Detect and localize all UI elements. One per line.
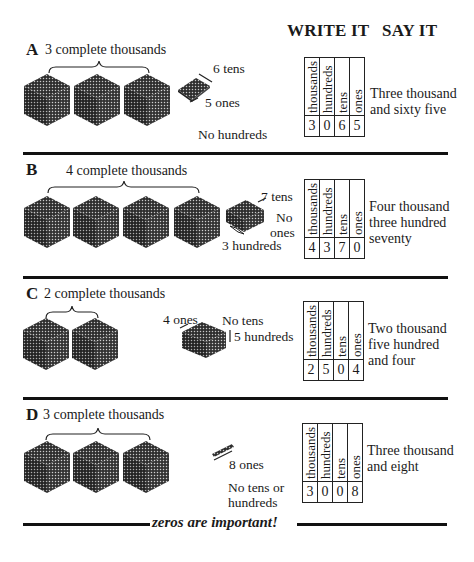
column-header: thousands (303, 424, 318, 481)
digit-thousands: 3 (303, 482, 318, 502)
section-title: 2 complete thousands (44, 286, 165, 302)
digit-tens: 0 (333, 482, 348, 502)
brace-icon (47, 180, 200, 194)
section-title: 3 complete thousands (43, 407, 164, 423)
hundreds-label: No hundreds (198, 127, 267, 142)
footer-rule-left (23, 523, 150, 526)
section-letter: A (26, 40, 38, 60)
place-value-table: thousands hundreds tens ones 2 5 0 4 (303, 301, 364, 381)
digit-ones: 5 (350, 116, 364, 136)
column-header: ones (349, 302, 363, 359)
place-value-table: thousands hundreds tens ones 3 0 6 5 (304, 57, 365, 137)
digit-ones: 4 (349, 360, 363, 380)
section-title: 4 complete thousands (66, 163, 187, 179)
section-divider (23, 397, 448, 400)
digit-hundreds: 0 (318, 482, 333, 502)
digit-ones: 8 (348, 482, 362, 502)
thousand-cube-icon (124, 74, 170, 128)
footer-rule-right (297, 523, 447, 526)
thousand-cube-icon (73, 441, 119, 495)
brace-icon (45, 427, 151, 441)
digit-thousands: 4 (305, 238, 320, 258)
digit-hundreds: 0 (320, 116, 335, 136)
digit-tens: 6 (335, 116, 350, 136)
place-value-table: thousands hundreds tens ones 3 0 0 8 (302, 423, 363, 503)
section-letter: D (26, 405, 38, 425)
say-it-text: Four thousand three hundred seventy (369, 199, 450, 247)
thousand-cube-icon (74, 74, 120, 128)
digit-hundreds: 5 (319, 360, 334, 380)
zeros-note: zeros are important! (152, 514, 278, 531)
ones-label: 4 ones (163, 312, 198, 327)
digit-ones: 0 (350, 238, 364, 258)
digit-hundreds: 3 (320, 238, 335, 258)
column-header: tens (335, 58, 350, 115)
say-it-text: Two thousand five hundred and four (368, 321, 447, 369)
section-divider (23, 276, 448, 279)
say-it-text: Three thousand and eight (367, 443, 454, 475)
brace-icon (48, 60, 150, 74)
thousand-cube-icon (123, 441, 169, 495)
column-header: hundreds (319, 302, 334, 359)
section-divider (23, 152, 448, 155)
ones-label: No (276, 210, 293, 225)
column-header: hundreds (318, 424, 333, 481)
thousand-cube-icon (72, 318, 118, 372)
tens-label: 7 tens (261, 189, 293, 204)
section-letter: B (26, 160, 37, 180)
digit-tens: 7 (335, 238, 350, 258)
brace-icon (45, 305, 99, 319)
digit-tens: 0 (334, 360, 349, 380)
thousand-cube-icon (24, 196, 70, 250)
write-it-heading: WRITE IT (287, 21, 369, 41)
thousand-cube-icon (73, 196, 119, 250)
column-header: tens (335, 180, 350, 237)
section-title: 3 complete thousands (45, 42, 166, 58)
say-it-text: Three thousand and sixty five (370, 86, 457, 118)
column-header: ones (350, 58, 364, 115)
none-label: No tens or (228, 480, 284, 495)
none-label: hundreds (228, 495, 278, 510)
thousand-cube-icon (23, 318, 69, 372)
column-header: hundreds (320, 180, 335, 237)
tens-label: 6 tens (213, 61, 245, 76)
thousand-cube-icon (24, 74, 70, 128)
column-header: ones (350, 180, 364, 237)
thousand-cube-icon (123, 196, 169, 250)
say-it-heading: SAY IT (382, 21, 437, 41)
column-header: thousands (305, 58, 320, 115)
column-header: thousands (304, 302, 319, 359)
column-header: ones (348, 424, 362, 481)
ones-label: 5 ones (205, 95, 240, 110)
tens-label: No tens (222, 313, 264, 328)
hundreds-label: 5 hundreds (234, 329, 294, 344)
ones-label: 8 ones (229, 457, 264, 472)
place-value-table: thousands hundreds tens ones 4 3 7 0 (304, 179, 365, 259)
thousand-cube-icon (174, 196, 220, 250)
digit-thousands: 2 (304, 360, 319, 380)
thousand-cube-icon (24, 441, 70, 495)
hundreds-label: 3 hundreds (222, 238, 282, 253)
digit-thousands: 3 (305, 116, 320, 136)
column-header: tens (333, 424, 348, 481)
section-letter: C (26, 284, 38, 304)
column-header: tens (334, 302, 349, 359)
column-header: hundreds (320, 58, 335, 115)
column-header: thousands (305, 180, 320, 237)
